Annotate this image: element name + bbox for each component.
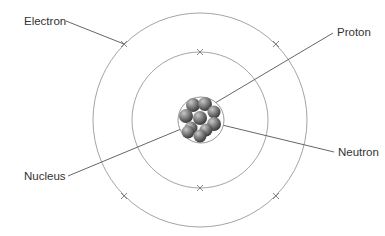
label-proton: Proton <box>337 26 371 38</box>
neutron-leader-line <box>218 124 334 152</box>
particle-icon <box>182 126 195 139</box>
label-nucleus: Nucleus <box>24 170 66 182</box>
nucleus-leader-line <box>68 129 181 176</box>
label-electron: Electron <box>24 15 66 27</box>
particle-icon <box>193 111 207 125</box>
electron-icon <box>273 193 279 199</box>
label-neutron: Neutron <box>338 146 379 158</box>
electron-leader-line <box>66 21 124 44</box>
particle-icon <box>179 109 193 123</box>
electron-icon <box>273 41 279 47</box>
particle-icon <box>194 130 207 143</box>
nucleus <box>178 97 224 143</box>
particle-icon <box>208 106 221 119</box>
electron-icon <box>121 193 127 199</box>
proton-leader-line <box>210 33 333 106</box>
atom-diagram: Electron Proton Neutron Nucleus <box>0 0 385 236</box>
